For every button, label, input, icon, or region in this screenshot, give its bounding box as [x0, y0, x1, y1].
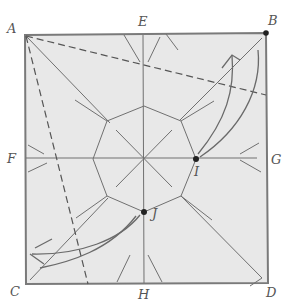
point-i-marker [193, 156, 199, 162]
origami-diagram: A B C D E F G H I J [0, 0, 284, 301]
label-h: H [137, 287, 150, 301]
label-f: F [6, 151, 17, 166]
label-b: B [267, 13, 278, 28]
label-a: A [6, 21, 16, 36]
label-d: D [265, 285, 277, 300]
label-i: I [193, 164, 200, 179]
label-e: E [137, 14, 148, 29]
label-c: C [10, 284, 20, 299]
label-g: G [271, 152, 281, 167]
point-b-marker [263, 30, 269, 36]
point-j-marker [141, 209, 147, 215]
